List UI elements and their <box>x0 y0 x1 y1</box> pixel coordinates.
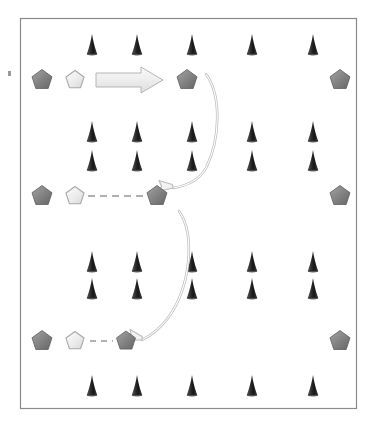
cone-base <box>132 140 143 142</box>
cone-base <box>247 140 258 142</box>
cone-base <box>132 297 143 299</box>
cone-base <box>132 394 143 396</box>
cone-base <box>308 140 319 142</box>
cone-base <box>87 140 98 142</box>
cone-base <box>247 270 258 272</box>
cone-base <box>308 53 319 55</box>
cone-base <box>187 297 198 299</box>
diagram-svg <box>0 0 377 425</box>
cone-base <box>87 394 98 396</box>
cone-base <box>247 394 258 396</box>
cone-base <box>187 140 198 142</box>
cone-base <box>308 394 319 396</box>
cone-base <box>132 169 143 171</box>
cone-base <box>187 169 198 171</box>
cone-base <box>132 270 143 272</box>
cone-base <box>308 297 319 299</box>
cone-base <box>132 53 143 55</box>
diagram-canvas <box>0 0 377 425</box>
cone-base <box>247 53 258 55</box>
cone-base <box>247 169 258 171</box>
cone-base <box>87 297 98 299</box>
cone-base <box>87 169 98 171</box>
cone-base <box>247 297 258 299</box>
left-edge-tick-mark <box>8 71 11 76</box>
cone-base <box>87 53 98 55</box>
cone-base <box>187 394 198 396</box>
cone-base <box>87 270 98 272</box>
cone-base <box>308 270 319 272</box>
cone-base <box>187 53 198 55</box>
cone-base <box>308 169 319 171</box>
